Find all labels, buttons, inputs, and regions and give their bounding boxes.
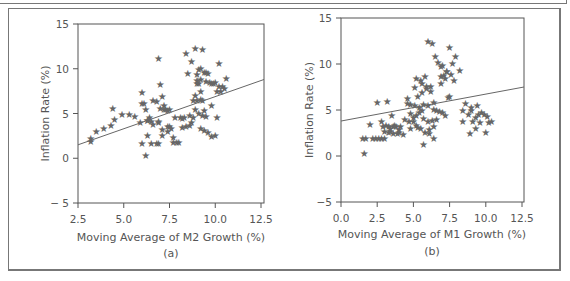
data-point: ★ — [149, 95, 158, 106]
scatter-points-b: ★★★★★★★★★★★★★★★★★★★★★★★★★★★★★★★★★★★★★★★★… — [358, 36, 496, 159]
data-point: ★ — [449, 75, 458, 86]
y-tick-label: −5 — [317, 196, 332, 208]
x-axis-title-b: Moving Average of M1 Growth (%) — [338, 228, 526, 241]
chart-panel-a: 151050− 5 2.55.07.510.012.5 ★★★★★★★★★★★★… — [39, 18, 273, 260]
data-point: ★ — [428, 38, 437, 49]
x-tick-label: 12.5 — [510, 212, 533, 224]
data-point: ★ — [441, 110, 450, 121]
data-point: ★ — [484, 117, 493, 128]
data-point: ★ — [436, 78, 445, 89]
data-point: ★ — [360, 148, 369, 159]
x-tick-label: 5.0 — [115, 213, 132, 225]
x-axis-a: 2.55.07.510.012.5 — [70, 203, 273, 225]
data-point: ★ — [203, 68, 212, 79]
y-axis-a: 151050− 5 — [50, 18, 78, 209]
y-axis-title-a: Inflation Rate (%) — [39, 65, 52, 161]
y-tick-label: 10 — [56, 63, 69, 75]
x-tick-label: 10.0 — [204, 213, 227, 225]
data-point: ★ — [213, 112, 222, 123]
y-tick-label: 5 — [62, 108, 69, 120]
panel-label-a: (a) — [163, 247, 178, 260]
x-tick-label: 2.5 — [70, 213, 87, 225]
x-tick-label: 10.0 — [474, 212, 497, 224]
data-point: ★ — [198, 44, 207, 55]
data-point: ★ — [165, 121, 174, 132]
x-axis-b: 0.02.55.07.510.012.5 — [333, 202, 534, 224]
data-point: ★ — [156, 79, 165, 90]
x-tick-label: 7.5 — [441, 212, 458, 224]
data-point: ★ — [365, 119, 374, 130]
data-point: ★ — [211, 130, 220, 141]
data-point: ★ — [373, 97, 382, 108]
scatter-points-a: ★★★★★★★★★★★★★★★★★★★★★★★★★★★★★★★★★★★★★★★★… — [86, 43, 230, 161]
y-tick-label: − 5 — [50, 197, 69, 209]
y-tick-label: 0 — [62, 152, 69, 164]
data-point: ★ — [154, 53, 163, 64]
data-point: ★ — [207, 100, 216, 111]
x-tick-label: 2.5 — [369, 212, 386, 224]
y-tick-label: 10 — [319, 58, 332, 70]
panel-label-b: (b) — [424, 245, 440, 258]
figure-canvas: 151050− 5 2.55.07.510.012.5 ★★★★★★★★★★★★… — [0, 0, 570, 281]
data-point: ★ — [108, 103, 117, 114]
x-tick-label: 12.5 — [249, 213, 272, 225]
data-point: ★ — [465, 128, 474, 139]
data-point: ★ — [141, 150, 150, 161]
x-tick-label: 7.5 — [161, 213, 178, 225]
y-axis-title-b: Inflation Rate (%) — [303, 62, 316, 158]
data-point: ★ — [444, 92, 453, 103]
data-point: ★ — [169, 132, 178, 143]
data-point: ★ — [451, 51, 460, 62]
data-point: ★ — [429, 97, 438, 108]
data-point: ★ — [426, 81, 435, 92]
data-point: ★ — [138, 138, 147, 149]
data-point: ★ — [413, 122, 422, 133]
y-tick-label: 5 — [325, 104, 332, 116]
data-point: ★ — [138, 98, 147, 109]
data-point: ★ — [138, 87, 147, 98]
y-axis-b: 151050−5 — [317, 12, 341, 208]
data-point: ★ — [473, 100, 482, 111]
data-point: ★ — [429, 121, 438, 132]
data-point: ★ — [214, 58, 223, 69]
y-tick-label: 15 — [319, 12, 332, 24]
x-axis-title-a: Moving Average of M2 Growth (%) — [77, 231, 265, 244]
y-tick-label: 0 — [325, 150, 332, 162]
y-tick-label: 15 — [56, 18, 69, 30]
data-point: ★ — [86, 136, 95, 147]
data-point: ★ — [222, 73, 231, 84]
data-point: ★ — [419, 139, 428, 150]
data-point: ★ — [202, 111, 211, 122]
x-tick-label: 0.0 — [333, 212, 350, 224]
data-point: ★ — [455, 65, 464, 76]
data-point: ★ — [386, 126, 395, 137]
data-point: ★ — [192, 75, 201, 86]
data-point: ★ — [196, 86, 205, 97]
data-point: ★ — [149, 119, 158, 130]
data-point: ★ — [387, 110, 396, 121]
chart-panel-b: 151050−5 0.02.55.07.510.012.5 ★★★★★★★★★★… — [303, 12, 534, 258]
x-tick-label: 5.0 — [405, 212, 422, 224]
data-point: ★ — [458, 116, 467, 127]
data-point: ★ — [183, 68, 192, 79]
data-point: ★ — [383, 96, 392, 107]
